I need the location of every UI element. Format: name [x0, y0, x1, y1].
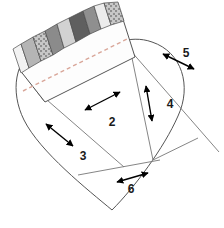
- heart-quilt-diagram: 2 3 4 5 6: [0, 0, 224, 228]
- section-label-2: 2: [109, 115, 116, 129]
- section-label-5: 5: [183, 46, 190, 60]
- section-label-3: 3: [80, 149, 87, 163]
- section-label-6: 6: [128, 182, 135, 196]
- diagram-canvas: 2 3 4 5 6: [0, 0, 224, 228]
- section-label-4: 4: [167, 97, 174, 111]
